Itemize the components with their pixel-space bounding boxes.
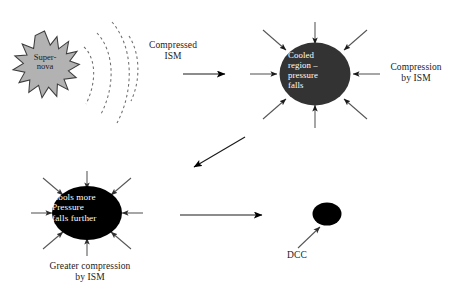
cools-more-label: Cools more Pressure falls further [52, 192, 124, 223]
cooled-region-label: Cooled region – pressure falls [288, 50, 350, 90]
greater-compression-by-ism-label: Greater compression by ISM [31, 261, 149, 282]
compressed-ism-label: Compressed ISM [138, 40, 208, 61]
diagram-graphics [0, 0, 454, 297]
diagram-canvas: Super- nova Cooled region – pressure fal… [0, 0, 454, 297]
supernova-label: Super- nova [24, 53, 66, 72]
arrow-dcc-pointer [298, 227, 320, 248]
inward-arrow-top-right [344, 30, 367, 50]
inward-arrow2-bottom-left [43, 232, 63, 249]
shock-wave-arc-4 [129, 36, 138, 101]
inward-arrow-top-left [263, 30, 286, 50]
inward-arrow-bottom-left [263, 99, 286, 119]
compression-by-ism-label: Compression by ISM [380, 62, 452, 83]
arrow-cooled-region-to-cools-more [194, 137, 245, 167]
shock-wave-arc-2 [97, 33, 111, 114]
dcc-label: DCC [287, 250, 319, 261]
inward-arrow2-bottom-right [111, 232, 131, 249]
shock-wave-arcs [84, 22, 138, 123]
shock-wave-arc-3 [112, 22, 129, 123]
dcc-ellipse [313, 203, 342, 226]
shock-wave-arc-1 [84, 47, 94, 104]
inward-arrow-bottom-right [344, 99, 367, 119]
